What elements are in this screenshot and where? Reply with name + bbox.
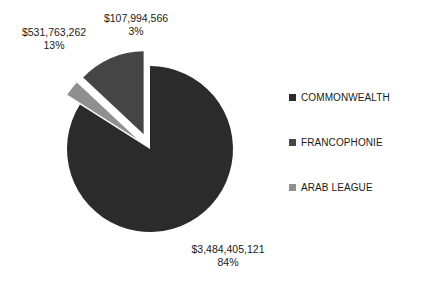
legend-item-francophonie[interactable]: FRANCOPHONIE xyxy=(289,133,419,151)
legend-item-commonwealth[interactable]: COMMONWEALTH xyxy=(289,88,419,106)
legend-label-commonwealth: COMMONWEALTH xyxy=(301,92,390,103)
legend-swatch-icon-arab-league xyxy=(289,184,296,191)
data-label-commonwealth: $3,484,405,121 84% xyxy=(168,243,288,269)
legend-swatch-icon-commonwealth xyxy=(289,94,296,101)
data-label-arab-league-percent: 3% xyxy=(88,25,184,38)
legend-label-arab-league: ARAB LEAGUE xyxy=(301,182,373,193)
data-label-francophonie-percent: 13% xyxy=(6,39,102,52)
pie-chart-figure: $531,763,262 13% $107,994,566 3% $3,484,… xyxy=(0,0,423,281)
legend-swatch-icon-francophonie xyxy=(289,139,296,146)
data-label-arab-league-value: $107,994,566 xyxy=(88,12,184,25)
pie-slices xyxy=(67,51,233,232)
pie-slice-commonwealth[interactable] xyxy=(67,66,233,232)
data-label-commonwealth-percent: 84% xyxy=(168,256,288,269)
legend-item-arab-league[interactable]: ARAB LEAGUE xyxy=(289,178,419,196)
data-label-arab-league: $107,994,566 3% xyxy=(88,12,184,38)
chart-legend: COMMONWEALTH FRANCOPHONIE ARAB LEAGUE xyxy=(289,88,419,223)
legend-label-francophonie: FRANCOPHONIE xyxy=(301,137,383,148)
data-label-commonwealth-value: $3,484,405,121 xyxy=(168,243,288,256)
